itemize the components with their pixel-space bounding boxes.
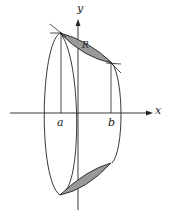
- solid-outer-left: [44, 33, 60, 195]
- curve-extension: [108, 60, 121, 73]
- solid-of-revolution-diagram: [0, 0, 170, 215]
- region-R-rotated: [60, 163, 111, 195]
- a-label: a: [57, 116, 64, 129]
- curve-extension: [106, 63, 121, 64]
- b-label: b: [108, 116, 115, 129]
- x-axis-label: x: [155, 104, 161, 117]
- x-axis-arrow-icon: [146, 111, 153, 116]
- solid-inner-arc: [60, 33, 77, 190]
- y-axis-label: y: [77, 2, 83, 15]
- y-axis-arrow-icon: [76, 19, 81, 26]
- region-label: R: [82, 40, 89, 50]
